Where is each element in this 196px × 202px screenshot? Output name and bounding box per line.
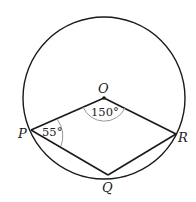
center-point [102,96,106,100]
label-o: O [98,81,109,96]
label-r: R [177,130,188,145]
angle-label-o: 150° [91,105,119,119]
label-q: Q [102,180,113,195]
label-p: P [17,126,27,141]
geometry-diagram: O P Q R 150° 55° [0,0,196,202]
angle-label-p: 55° [42,125,62,139]
